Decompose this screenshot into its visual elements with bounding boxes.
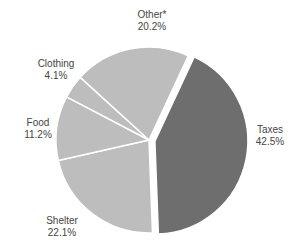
label-taxes-name: Taxes	[252, 124, 288, 136]
label-other-pct: 20.2%	[124, 21, 180, 33]
label-shelter: Shelter 22.1%	[42, 215, 82, 239]
label-clothing-name: Clothing	[28, 58, 84, 70]
label-clothing: Clothing 4.1%	[28, 58, 84, 82]
label-clothing-pct: 4.1%	[28, 70, 84, 82]
label-taxes-pct: 42.5%	[252, 136, 288, 148]
label-shelter-name: Shelter	[42, 215, 82, 227]
label-other-name: Other*	[124, 9, 180, 21]
label-food-name: Food	[18, 117, 58, 129]
label-taxes: Taxes 42.5%	[252, 124, 288, 148]
label-food-pct: 11.2%	[18, 129, 58, 141]
label-food: Food 11.2%	[18, 117, 58, 141]
label-shelter-pct: 22.1%	[42, 227, 82, 239]
label-other: Other* 20.2%	[124, 9, 180, 33]
